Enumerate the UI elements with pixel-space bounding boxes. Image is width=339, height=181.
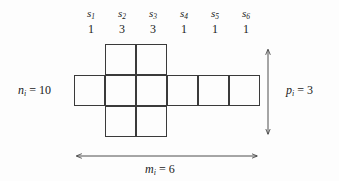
grid-cell-c6-r2 [229,75,260,106]
column-symbol-6: s6 [229,8,263,20]
column-value-5: 1 [198,23,232,36]
grid-cell-c2-r1 [105,44,136,75]
column-symbol-3: s3 [136,8,170,20]
grid-cell-c1-r2 [74,75,105,106]
grid-cell-c3-r3 [136,106,167,137]
column-value-6: 1 [229,23,263,36]
polyomino-figure: s1 1 s2 3 s3 3 s4 1 s5 1 s6 1 ni = 10 pi… [0,0,339,181]
column-header-5: s5 1 [198,8,232,35]
column-value-2: 3 [105,23,139,36]
column-header-1: s1 1 [74,8,108,35]
grid-cell-c5-r2 [198,75,229,106]
column-header-6: s6 1 [229,8,263,35]
column-symbol-5: s5 [198,8,232,20]
column-symbol-4: s4 [167,8,201,20]
column-header-3: s3 3 [136,8,170,35]
bottom-label-m: mi = 6 [145,162,175,177]
column-symbol-2: s2 [105,8,139,20]
column-header-2: s2 3 [105,8,139,35]
grid-cell-c3-r1 [136,44,167,75]
grid-cell-c4-r2 [167,75,198,106]
column-value-1: 1 [74,23,108,36]
column-symbol-1: s1 [74,8,108,20]
column-value-3: 3 [136,23,170,36]
grid-cell-c2-r2 [105,75,136,106]
column-header-4: s4 1 [167,8,201,35]
right-label-p: pi = 3 [286,83,313,98]
left-label-n: ni = 10 [18,83,51,98]
grid-cell-c3-r2 [136,75,167,106]
column-value-4: 1 [167,23,201,36]
grid-cell-c2-r3 [105,106,136,137]
